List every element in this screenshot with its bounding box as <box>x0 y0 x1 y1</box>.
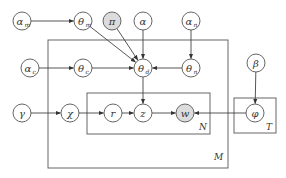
node-z: z <box>134 104 152 122</box>
node-chi: χ <box>61 104 79 122</box>
node-label: χ <box>66 108 74 119</box>
plate-M: M <box>48 40 228 168</box>
node-label: θ <box>138 63 144 74</box>
node-alpha_n: αn <box>182 12 200 30</box>
node-label: α <box>186 16 193 27</box>
node-label: α <box>140 16 147 27</box>
node-subscript: n <box>194 21 198 28</box>
node-phi: φ <box>246 104 264 122</box>
node-subscript: d <box>146 68 150 75</box>
node-theta_m: θm <box>74 12 92 30</box>
plate-label: M <box>213 152 224 162</box>
node-gamma: γ <box>13 104 31 122</box>
node-label: γ <box>19 108 25 119</box>
node-label: θ <box>78 63 84 74</box>
node-theta_n: θn <box>182 59 200 77</box>
edge-theta_m-to-theta_d <box>90 27 135 63</box>
plate-border <box>48 40 228 168</box>
node-r: r <box>104 104 122 122</box>
node-beta: β <box>247 54 265 72</box>
node-label: θ <box>186 63 192 74</box>
node-label: w <box>181 108 190 119</box>
node-subscript: n <box>194 68 198 75</box>
node-label: β <box>252 58 259 69</box>
node-alpha: α <box>134 12 152 30</box>
node-label: α <box>25 63 32 74</box>
node-label: π <box>108 16 116 27</box>
node-alpha_c: αc <box>21 59 39 77</box>
node-pi: π <box>103 12 121 30</box>
node-subscript: m <box>25 21 31 28</box>
node-alpha_m: αm <box>13 12 31 30</box>
plate-diagram: MNT αmθmπααnαcθcθdθnβγχrzwφ <box>0 0 286 178</box>
node-label: α <box>17 16 24 27</box>
node-theta_d: θd <box>134 59 152 77</box>
node-label: z <box>139 108 146 119</box>
edge-beta-to-phi <box>255 72 256 104</box>
node-label: θ <box>78 16 84 27</box>
node-subscript: m <box>86 21 92 28</box>
node-w: w <box>176 104 194 122</box>
node-theta_c: θc <box>74 59 92 77</box>
node-label: φ <box>251 108 258 119</box>
plate-label: T <box>266 122 273 132</box>
nodes: αmθmπααnαcθcθdθnβγχrzwφ <box>13 12 265 122</box>
plate-label: N <box>198 122 208 132</box>
